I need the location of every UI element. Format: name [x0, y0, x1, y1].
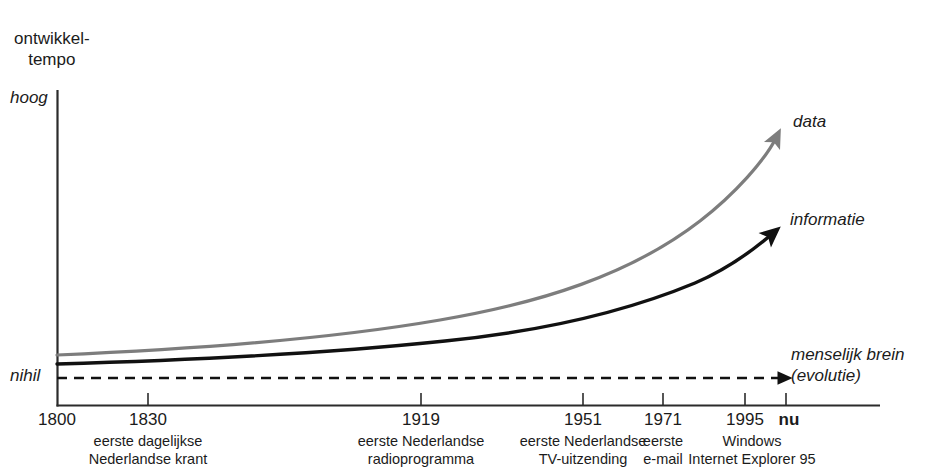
chart-canvas: ontwikkel- tempo hoog nihil — [0, 0, 935, 474]
series-label-informatie: informatie — [790, 209, 865, 230]
x-tick-label-nu: nu — [779, 410, 800, 430]
x-caption-krant: eerste dagelijkse Nederlandse krant — [89, 432, 208, 468]
x-caption-email-line2: e-mail — [643, 450, 683, 468]
x-caption-radio-line1: eerste Nederlandse — [358, 432, 485, 450]
x-tick-label-1830: 1830 — [129, 410, 167, 430]
x-caption-tv-line2: TV-uitzending — [520, 450, 647, 468]
x-caption-radio-line2: radioprogramma — [358, 450, 485, 468]
x-tick-label-1995: 1995 — [726, 410, 764, 430]
x-tick-label-1951: 1951 — [564, 410, 602, 430]
x-caption-tv-line1: eerste Nederlandse — [520, 432, 647, 450]
series-label-menselijk-brein: menselijk brein (evolutie) — [791, 344, 904, 386]
x-caption-windows: Windows Internet Explorer 95 — [688, 432, 815, 468]
series-label-brein-line2: (evolutie) — [791, 365, 904, 386]
x-axis-ticks — [148, 393, 786, 405]
series-data-curve — [57, 138, 776, 355]
x-caption-windows-line1: Windows — [688, 432, 815, 450]
series-informatie-curve — [57, 234, 772, 364]
x-caption-krant-line2: Nederlandse krant — [89, 450, 208, 468]
x-caption-tv: eerste Nederlandse TV-uitzending — [520, 432, 647, 468]
x-caption-email-line1: eerste — [643, 432, 683, 450]
series-label-data: data — [793, 111, 826, 132]
series-label-brein-line1: menselijk brein — [791, 344, 904, 365]
x-caption-krant-line1: eerste dagelijkse — [89, 432, 208, 450]
plot-area — [0, 0, 935, 474]
x-tick-label-1919: 1919 — [402, 410, 440, 430]
x-tick-label-1800: 1800 — [38, 410, 76, 430]
x-caption-windows-line2: Internet Explorer 95 — [688, 450, 815, 468]
x-caption-email: eerste e-mail — [643, 432, 683, 468]
x-caption-radio: eerste Nederlandse radioprogramma — [358, 432, 485, 468]
x-tick-label-1971: 1971 — [644, 410, 682, 430]
